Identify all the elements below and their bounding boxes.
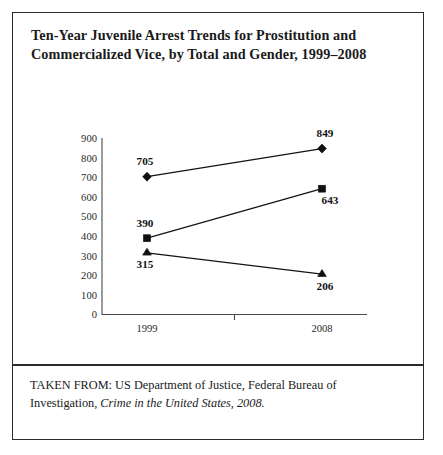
source-note-middle: Investigation, xyxy=(30,396,100,410)
series-total: 705 849 xyxy=(137,127,334,181)
point-label-female-2008: 643 xyxy=(322,194,339,206)
figure-title-line-1: Ten-Year Juvenile Arrest Trends for Pros… xyxy=(31,26,405,45)
x-tick-label-1999: 1999 xyxy=(136,323,157,334)
series-male-line xyxy=(147,253,322,274)
chart-plot-area: 900 800 700 600 500 400 300 200 100 0 19… xyxy=(13,64,423,364)
marker-square-female-1999 xyxy=(144,235,151,242)
point-label-total-1999: 705 xyxy=(137,155,154,167)
x-tick-label-2008: 2008 xyxy=(311,323,332,334)
series-total-line xyxy=(147,149,322,177)
point-label-female-1999: 390 xyxy=(137,217,154,229)
figure-title: Ten-Year Juvenile Arrest Trends for Pros… xyxy=(13,13,423,64)
y-tick-label: 900 xyxy=(81,133,97,144)
point-label-male-1999: 315 xyxy=(137,258,154,270)
series-male: 315 206 xyxy=(137,249,334,293)
y-tick-label: 400 xyxy=(81,231,97,242)
point-label-male-2008: 206 xyxy=(317,280,334,292)
marker-triangle-male-2008 xyxy=(318,270,327,277)
y-tick-label: 800 xyxy=(81,153,97,164)
series-female: 390 643 xyxy=(137,186,339,242)
y-tick-label: 100 xyxy=(81,290,97,301)
marker-diamond-total-2008 xyxy=(318,144,327,153)
series-female-line xyxy=(147,189,322,239)
line-chart: 900 800 700 600 500 400 300 200 100 0 19… xyxy=(13,64,422,364)
y-tick-label: 300 xyxy=(81,251,97,262)
marker-diamond-total-1999 xyxy=(143,173,152,182)
y-tick-label: 0 xyxy=(92,310,97,321)
source-note-publication: Crime in the United States, 2008. xyxy=(100,396,264,410)
marker-square-female-2008 xyxy=(319,186,326,193)
y-tick-label: 200 xyxy=(81,270,97,281)
y-tick-label: 500 xyxy=(81,212,97,223)
y-tick-label: 600 xyxy=(81,192,97,203)
y-axis-tick-labels: 900 800 700 600 500 400 300 200 100 0 xyxy=(81,133,97,320)
source-note: TAKEN FROM: US Department of Justice, Fe… xyxy=(13,366,423,439)
figure-title-line-2: Commercialized Vice, by Total and Gender… xyxy=(31,45,405,64)
figure-frame: Ten-Year Juvenile Arrest Trends for Pros… xyxy=(12,12,424,440)
marker-triangle-male-1999 xyxy=(143,249,152,256)
source-note-prefix: TAKEN FROM: US Department of Justice, Fe… xyxy=(30,378,337,392)
point-label-total-2008: 849 xyxy=(317,127,334,139)
y-tick-label: 700 xyxy=(81,173,97,184)
